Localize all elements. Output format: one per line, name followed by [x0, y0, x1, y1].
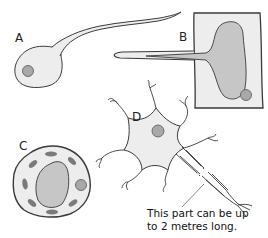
- caption-line-2: to 2 metres long.: [147, 220, 268, 233]
- cell-a-nucleus: [23, 66, 34, 77]
- cell-b-nucleus: [241, 90, 252, 101]
- axon: [176, 147, 252, 216]
- label-a: A: [15, 32, 23, 44]
- label-d: D: [132, 111, 141, 123]
- cell-c: [13, 146, 90, 217]
- caption-line-1: This part can be up: [147, 207, 268, 220]
- cell-a: [15, 12, 181, 88]
- cell-a-body: [15, 46, 62, 87]
- chloroplast: [46, 209, 58, 214]
- cell-c-nucleus: [76, 180, 87, 191]
- cell-b: [114, 13, 263, 108]
- chloroplast: [45, 151, 57, 156]
- cell-d-nucleus: [152, 125, 164, 137]
- label-b: B: [179, 31, 187, 43]
- cell-a-tail: [52, 12, 181, 56]
- caption-pointer: [182, 184, 204, 207]
- caption: This part can be up to 2 metres long.: [147, 207, 268, 233]
- label-c: C: [19, 140, 27, 152]
